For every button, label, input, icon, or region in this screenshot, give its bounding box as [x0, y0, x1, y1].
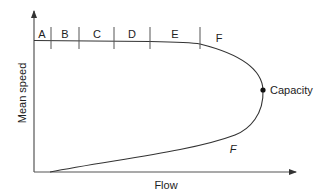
los-label-f-lower: F: [230, 143, 238, 155]
y-axis-label: Mean speed: [16, 63, 28, 124]
capacity-point-marker: [260, 87, 265, 92]
capacity-label: Capacity: [270, 84, 313, 96]
los-label-d: D: [128, 28, 136, 40]
speed-flow-diagram: A B C D E F F Capacity Mean speed Flow: [0, 0, 324, 194]
los-label-c: C: [93, 28, 101, 40]
los-label-f-upper: F: [216, 32, 223, 44]
los-label-a: A: [38, 28, 46, 40]
los-label-b: B: [61, 28, 68, 40]
x-axis-label: Flow: [154, 179, 177, 191]
los-label-e: E: [171, 28, 178, 40]
